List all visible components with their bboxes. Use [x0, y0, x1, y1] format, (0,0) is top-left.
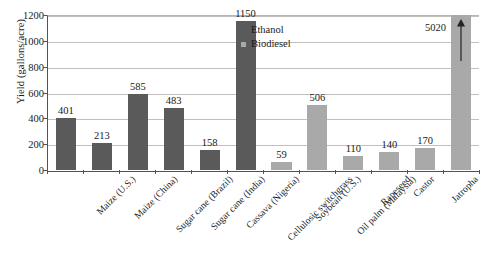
bar: 483	[164, 108, 184, 170]
bar-value-label: 506	[310, 93, 326, 104]
x-axis-label: Maize (China)	[133, 174, 180, 221]
bar-value-label: 213	[94, 131, 110, 142]
bar: 585	[128, 94, 148, 170]
legend-label: Ethanol	[251, 23, 284, 37]
bar-value-label: 170	[417, 136, 433, 147]
legend-item: Ethanol	[241, 23, 291, 37]
bar: 213	[92, 143, 112, 171]
bar: 140	[379, 152, 399, 170]
bar-value-label: 59	[276, 150, 287, 161]
legend-item: Biodiesel	[241, 37, 291, 51]
y-tick-label: 0	[2, 165, 44, 176]
chart-legend: EthanolBiodiesel	[241, 23, 291, 51]
bar-slot: 110	[335, 16, 371, 170]
bar: 170	[415, 148, 435, 170]
x-axis-label: Maize (U.S.)	[95, 174, 138, 217]
bar: 59	[271, 162, 291, 170]
y-tick-label: 400	[2, 113, 44, 124]
bar-value-label: 1150	[235, 9, 256, 20]
x-axis-label: Jatropha	[450, 174, 481, 205]
bar: 401	[56, 118, 76, 170]
y-tick-mark	[43, 93, 47, 94]
bar-slot: 506	[299, 16, 335, 170]
bar-slot: 483	[156, 16, 192, 170]
bar-value-label: 401	[58, 106, 74, 117]
legend-swatch	[241, 42, 246, 47]
y-tick-mark	[43, 15, 47, 16]
legend-swatch	[241, 28, 246, 33]
y-tick-mark	[43, 118, 47, 119]
bar-slot: 401	[48, 16, 84, 170]
bar: 506	[307, 105, 327, 170]
y-tick-label: 600	[2, 87, 44, 98]
bar-value-label: 158	[202, 138, 218, 149]
bar-slot: 213	[84, 16, 120, 170]
y-tick-mark	[43, 144, 47, 145]
bar-value-label: 483	[166, 96, 182, 107]
bar-value-label: 110	[346, 144, 361, 155]
y-tick-label: 1200	[2, 10, 44, 21]
y-tick-label: 800	[2, 61, 44, 72]
bar-slot: 140	[371, 16, 407, 170]
bar-value-label: 140	[381, 140, 397, 151]
x-axis-labels: Maize (U.S.)Maize (China)Sugar cane (Bra…	[47, 174, 479, 262]
x-tick-mark	[479, 170, 480, 174]
bar-value-label: 5020	[425, 23, 446, 34]
overflow-arrow-icon	[457, 19, 466, 61]
y-tick-label: 200	[2, 139, 44, 150]
bar: 158	[200, 150, 220, 170]
y-tick-mark	[43, 41, 47, 42]
y-tick-label: 1000	[2, 35, 44, 46]
bar: 5020	[451, 15, 471, 170]
y-tick-mark	[43, 67, 47, 68]
bar-value-label: 585	[130, 82, 146, 93]
bar-slot: 158	[192, 16, 228, 170]
bar: 110	[343, 156, 363, 170]
bar-chart: Yield (gallons/acre) 4012135854831581150…	[0, 0, 486, 262]
bar-slot: 585	[120, 16, 156, 170]
bar-slot: 170	[407, 16, 443, 170]
bar-slot: 5020	[443, 16, 479, 170]
legend-label: Biodiesel	[251, 37, 291, 51]
